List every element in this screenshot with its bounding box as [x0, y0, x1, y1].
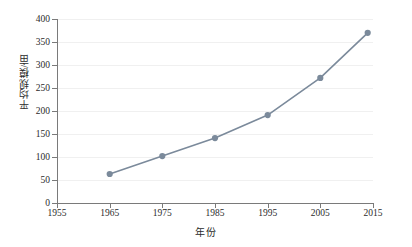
- data-point-marker: [159, 153, 165, 159]
- series-line: [110, 33, 368, 174]
- data-series-layer: [0, 0, 412, 247]
- chart-container: 050100150200250300350400 195519651975198…: [0, 0, 412, 247]
- data-point-marker: [212, 135, 218, 141]
- data-point-marker: [317, 75, 323, 81]
- data-point-marker: [265, 112, 271, 118]
- data-point-marker: [365, 30, 371, 36]
- data-point-marker: [107, 171, 113, 177]
